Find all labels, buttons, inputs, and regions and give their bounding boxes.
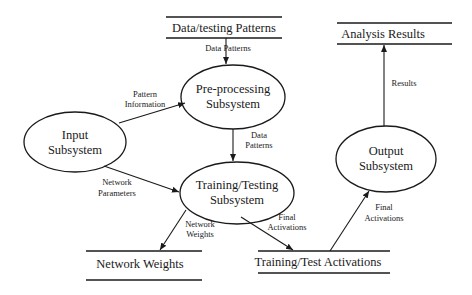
store-label: Analysis Results (341, 27, 425, 41)
process-label-line2: Subsystem (359, 159, 413, 173)
flow-label-line1: Final (278, 212, 296, 222)
flow-label-line1: Network (185, 219, 215, 229)
flow-data-patterns-to-preprocessing: Data Patterns (205, 38, 251, 64)
flow-pattern-information: Pattern Information (119, 89, 185, 123)
store-network-weights: Network Weights (86, 251, 202, 280)
flow-label-line2: Patterns (245, 140, 272, 150)
flow-label-line2: Parameters (98, 188, 136, 198)
flow-label-line1: Network (102, 177, 132, 187)
process-label-line1: Output (369, 144, 404, 158)
process-training-testing: Training/Testing Subsystem (180, 162, 294, 224)
store-label: Data/testing Patterns (172, 21, 276, 35)
flow-label-line1: Pattern (133, 89, 158, 99)
process-label-line1: Input (62, 128, 89, 142)
process-label-line2: Subsystem (206, 97, 260, 111)
flow-results: Results (384, 45, 417, 126)
flow-label-line2: Activations (364, 213, 403, 223)
process-preprocessing: Pre-processing Subsystem (181, 65, 285, 129)
process-input: Input Subsystem (24, 112, 126, 172)
store-label: Network Weights (96, 257, 183, 271)
store-analysis-results: Analysis Results (337, 23, 452, 44)
flow-label-line2: Information (125, 99, 166, 109)
process-label-line1: Training/Testing (196, 178, 279, 192)
store-training-test-activations: Training/Test Activations (255, 251, 390, 273)
flow-network-weights: Network Weights (160, 210, 216, 250)
process-label-line2: Subsystem (48, 143, 102, 157)
flow-network-parameters: Network Parameters (98, 166, 179, 198)
store-label: Training/Test Activations (255, 255, 382, 269)
flow-label: Data Patterns (205, 43, 251, 53)
flow-label-line1: Data (251, 130, 267, 140)
flow-label-line1: Final (375, 202, 393, 212)
flow-label-line2: Activations (267, 222, 306, 232)
process-label-line2: Subsystem (210, 193, 264, 207)
flow-label: Results (391, 78, 416, 88)
flow-final-activations-to-store: Final Activations (241, 212, 307, 250)
process-output: Output Subsystem (336, 126, 436, 192)
flow-final-activations-to-output: Final Activations (330, 191, 404, 251)
flow-data-patterns-to-training: Data Patterns (233, 129, 273, 161)
store-data-testing-patterns: Data/testing Patterns (166, 17, 282, 38)
process-label-line1: Pre-processing (196, 82, 271, 96)
flow-label-line2: Weights (186, 229, 214, 239)
data-flow-diagram: Data/testing Patterns Analysis Results N… (0, 0, 472, 295)
